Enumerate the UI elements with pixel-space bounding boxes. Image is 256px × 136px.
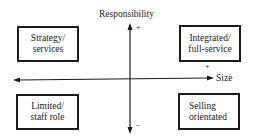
- quadrant-line-2: orientated: [189, 112, 227, 123]
- size-axis-right-arrowhead-icon: [207, 76, 214, 81]
- quadrant-line-1: Integrated/: [189, 33, 230, 44]
- size-axis-left-arrowhead-icon: [13, 78, 20, 83]
- quadrant-integrated-full-service: Integrated/ full-service: [179, 25, 241, 62]
- size-axis-label: Size: [216, 73, 232, 83]
- quadrant-line-1: Limited/: [31, 101, 64, 112]
- quadrant-limited-staff-role: Limited/ staff role: [16, 94, 79, 130]
- responsibility-axis-label: Responsibility: [99, 9, 154, 19]
- responsibility-axis-up-arrowhead-icon: [128, 23, 133, 30]
- quadrant-line-1: Selling: [189, 101, 216, 112]
- responsibility-size-matrix: Responsibility + – + Size Strategy/ serv…: [0, 0, 256, 136]
- quadrant-line-2: full-service: [188, 44, 231, 55]
- responsibility-minus-sign: –: [136, 121, 140, 129]
- quadrant-line-2: services: [33, 44, 64, 55]
- quadrant-strategy-services: Strategy/ services: [17, 26, 79, 62]
- responsibility-axis-down-arrowhead-icon: [128, 127, 133, 134]
- quadrant-line-2: staff role: [31, 112, 65, 123]
- size-axis-line: [18, 78, 209, 80]
- quadrant-line-1: Strategy/: [31, 33, 65, 44]
- size-plus-sign: +: [205, 63, 210, 71]
- responsibility-plus-sign: +: [136, 24, 141, 32]
- quadrant-selling-orientated: Selling orientated: [178, 93, 240, 130]
